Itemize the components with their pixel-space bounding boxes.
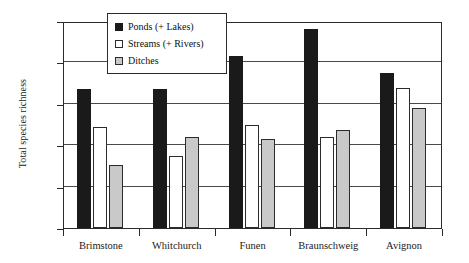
x-axis-label-braunschweig: Braunschweig — [298, 240, 358, 251]
bar-ditches-brimstone — [109, 165, 123, 228]
bar-ditches-whitchurch — [185, 137, 199, 228]
bar-ditches-braunschweig — [336, 130, 350, 228]
legend-swatch-ditches-icon — [115, 57, 123, 65]
bar-streams-braunschweig — [320, 137, 334, 228]
bar-ponds-brimstone — [77, 89, 91, 228]
bar-ditches-avignon — [412, 108, 426, 228]
x-axis-label-whitchurch: Whitchurch — [152, 240, 202, 251]
x-tick-mark-1 — [139, 229, 140, 236]
legend-label-ditches: Ditches — [128, 55, 159, 66]
x-tick-mark-2 — [215, 229, 216, 236]
bar-ponds-avignon — [380, 73, 394, 228]
chart-legend: Ponds (+ Lakes)Streams (+ Rivers)Ditches — [107, 13, 227, 74]
x-axis-label-brimstone: Brimstone — [79, 240, 123, 251]
bar-ditches-funen — [261, 139, 275, 228]
y-axis-title: Total species richness — [17, 44, 28, 204]
legend-label-ponds: Ponds (+ Lakes) — [128, 21, 194, 32]
bar-ponds-funen — [229, 56, 243, 228]
bar-streams-brimstone — [93, 127, 107, 228]
bar-streams-avignon — [396, 88, 410, 228]
legend-item-ditches: Ditches — [115, 52, 220, 69]
bar-ponds-whitchurch — [153, 89, 167, 228]
bar-chart: Total species richness 020406080100 Brim… — [0, 0, 469, 263]
legend-swatch-streams-icon — [115, 40, 123, 48]
legend-item-streams: Streams (+ Rivers) — [115, 35, 220, 52]
x-axis-label-funen: Funen — [239, 240, 265, 251]
bar-streams-whitchurch — [169, 156, 183, 228]
x-axis-label-avignon: Avignon — [386, 240, 422, 251]
x-tick-mark-0 — [63, 229, 64, 236]
legend-label-streams: Streams (+ Rivers) — [128, 38, 204, 49]
x-tick-mark-4 — [366, 229, 367, 236]
x-tick-mark-5 — [442, 229, 443, 236]
bar-ponds-braunschweig — [304, 29, 318, 228]
x-tick-mark-3 — [290, 229, 291, 236]
legend-swatch-ponds-icon — [115, 23, 123, 31]
legend-item-ponds: Ponds (+ Lakes) — [115, 18, 220, 35]
bar-streams-funen — [245, 125, 259, 229]
